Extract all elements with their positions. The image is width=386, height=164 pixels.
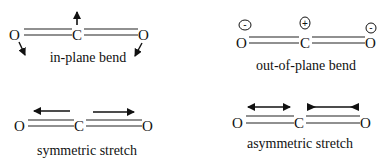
panel-out-of-plane-bend: - + - O C O out-of-plane bend — [236, 17, 376, 73]
atom-oxygen-right: O — [142, 118, 153, 134]
atom-oxygen-right: O — [360, 115, 371, 131]
mode-label: symmetric stretch — [37, 143, 137, 158]
charge-right: - — [369, 22, 372, 33]
mode-label: out-of-plane bend — [256, 58, 356, 73]
atom-oxygen-right: O — [138, 27, 149, 43]
atom-oxygen-left: O — [236, 35, 247, 51]
arrow-down-left-icon — [19, 42, 25, 55]
atom-carbon: C — [300, 35, 310, 51]
arrow-down-right-icon — [135, 43, 142, 56]
atom-carbon: C — [72, 27, 82, 43]
charge-center: + — [302, 18, 308, 29]
atom-carbon: C — [294, 115, 304, 131]
atom-oxygen-right: O — [365, 35, 376, 51]
arrowhead-right-icon — [307, 103, 316, 111]
charge-left: - — [243, 19, 246, 30]
panel-in-plane-bend: O C O in-plane bend — [9, 12, 149, 65]
atom-carbon: C — [74, 118, 84, 134]
atom-oxygen-left: O — [232, 115, 243, 131]
atom-oxygen-left: O — [9, 27, 20, 43]
mode-label: in-plane bend — [50, 50, 127, 65]
arrowhead-left-icon — [350, 103, 359, 111]
panel-symmetric-stretch: O C O symmetric stretch — [14, 111, 153, 158]
co2-vibrational-modes-diagram: O C O in-plane bend - + - O C O out-of-p… — [0, 0, 386, 164]
panel-asymmetric-stretch: O C O asymmetric stretch — [232, 103, 371, 151]
mode-label: asymmetric stretch — [247, 136, 353, 151]
atom-oxygen-left: O — [14, 118, 25, 134]
